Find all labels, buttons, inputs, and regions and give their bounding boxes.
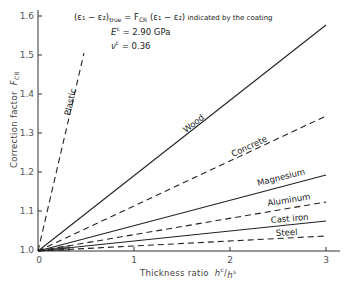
y-tick-label: 1.5 [20,50,34,60]
y-tick-labels: 1.6 1.5 1.4 1.3 1.2 1.1 1.0 [20,11,35,255]
line-plastic [38,53,84,251]
y-tick-label: 1.4 [20,89,35,99]
label-plastic: Plastic [62,87,78,116]
y-tick-label: 1.2 [20,167,34,177]
x-tick-label: 1 [131,255,137,265]
y-tick-label: 1.0 [20,245,35,255]
origin-cluster [38,245,70,251]
y-axis-title: Correction factorFCR [9,71,20,168]
label-steel: Steel [276,227,298,238]
svg-text:Correction factorFCR: Correction factorFCR [9,71,20,168]
annotation-block: (ε₁ − ε₂)true = FCR (ε₁ − ε₂) indicated … [74,12,273,51]
chart: 1.6 1.5 1.4 1.3 1.2 1.1 1.0 0 1 2 3 Plas… [0,0,358,284]
y-ticks [38,16,42,211]
x-tick-label: 0 [36,255,42,265]
annotation-modulus: Ec = 2.90 GPa [111,25,170,37]
label-magnesium: Magnesium [256,166,306,188]
label-wood: Wood [181,112,206,134]
y-tick-label: 1.6 [20,11,35,21]
x-tick-label: 2 [227,255,233,265]
x-tick-labels: 0 1 2 3 [36,255,329,265]
y-tick-label: 1.3 [20,128,34,138]
x-ticks [134,247,326,251]
y-tick-label: 1.1 [20,206,34,216]
annotation-equation: (ε₁ − ε₂)true = FCR (ε₁ − ε₂) indicated … [74,12,273,23]
label-concrete: Concrete [230,134,269,159]
svg-text:Thickness ratiohc/hs: Thickness ratiohc/hs [139,266,236,280]
annotation-poisson: νc = 0.36 [111,39,151,51]
x-tick-label: 3 [323,255,329,265]
x-axis-title: Thickness ratiohc/hs [139,266,236,280]
